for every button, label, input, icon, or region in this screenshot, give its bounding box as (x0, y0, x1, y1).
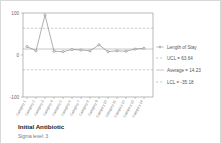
legend-label-series: Length of Stay (167, 45, 197, 50)
y-axis-label-mid: 0 (16, 53, 19, 58)
y-axis-label-top: 100 (11, 11, 19, 16)
series-point (125, 50, 127, 52)
series-line (27, 15, 144, 52)
series-point (71, 48, 73, 50)
chart-subtitle: Sigma level: 3 (18, 134, 48, 139)
series-point (62, 51, 64, 53)
legend-label-ucl: UCL = 63.64 (167, 56, 193, 61)
series-point (89, 50, 91, 52)
series-point (53, 50, 55, 52)
legend-label-lcl: LCL = -35.18 (167, 80, 194, 85)
y-axis-label-bottom: -100 (10, 95, 20, 100)
control-chart: 100 0 -100 Category 1 Category 2 (1, 1, 221, 144)
x-axis-category-labels: Category 1 Category 2 Category 3 Categor… (15, 100, 144, 119)
legend-label-average: Average = 14.23 (167, 68, 201, 73)
legend: Length of Stay UCL = 63.64 Average = 14.… (156, 45, 201, 86)
series-point (35, 50, 37, 52)
series-point (80, 49, 82, 51)
series-point (116, 50, 118, 52)
series-point (44, 14, 46, 16)
x-tick-group (27, 97, 144, 99)
chart-title: Initial Antibiotic (18, 123, 65, 130)
series-point (143, 47, 145, 49)
series-point (98, 44, 100, 46)
series-point (26, 46, 28, 48)
series-point (134, 48, 136, 50)
chart-card: 100 0 -100 Category 1 Category 2 (0, 0, 221, 144)
legend-marker-series (159, 46, 161, 48)
series-point (107, 51, 109, 53)
